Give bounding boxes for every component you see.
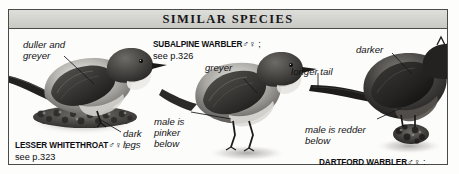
- annotation-male-is-redder-below: male is redder below: [305, 124, 366, 146]
- page-title: SIMILAR SPECIES: [162, 12, 293, 27]
- species-sex-subalpine-warbler: ♂♀ ;: [242, 39, 261, 49]
- similar-species-panel: SIMILAR SPECIES: [8, 9, 448, 165]
- annotation-duller-and-greyer: duller and greyer: [23, 39, 65, 61]
- species-label-lesser-whitethroat: LESSER WHITETHROAT♂♀ ; see p.323: [15, 140, 127, 162]
- leader-lines: [64, 53, 412, 132]
- species-label-subalpine-warbler: SUBALPINE WARBLER♂♀ ; see p.326: [153, 39, 261, 61]
- species-sex-lesser-whitethroat: ♂♀ ;: [108, 140, 127, 150]
- annotation-male-is-pinker-below: male is pinker below: [154, 116, 184, 150]
- species-name-dartford-warbler: DARTFORD WARBLER: [319, 158, 407, 165]
- species-sex-dartford-warbler: ♂♀ ;: [407, 157, 426, 165]
- annotation-darker: darker: [356, 44, 383, 55]
- species-page-subalpine-warbler[interactable]: see p.326: [153, 51, 261, 62]
- panel-header: SIMILAR SPECIES: [9, 10, 447, 29]
- species-name-subalpine-warbler: SUBALPINE WARBLER: [153, 40, 242, 49]
- annotation-greyer: greyer: [205, 62, 232, 73]
- species-label-dartford-warbler: DARTFORD WARBLER♂♀ ; see p.327: [319, 157, 426, 165]
- species-page-lesser-whitethroat[interactable]: see p.323: [15, 152, 127, 163]
- similar-species-plate: SIMILAR SPECIES: [0, 0, 459, 174]
- annotation-longer-tail: longer tail: [291, 66, 333, 77]
- panel-body: duller and greyer dark legs LESSER WHITE…: [9, 30, 447, 165]
- species-name-lesser-whitethroat: LESSER WHITETHROAT: [15, 141, 108, 150]
